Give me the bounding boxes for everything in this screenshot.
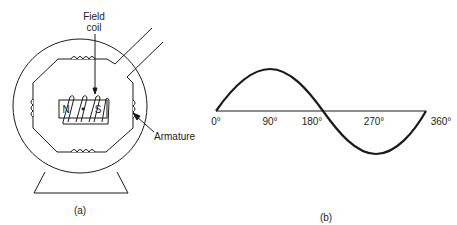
generator-diagram: Field coil N S Armature (a) 0° 90° 180° … — [0, 0, 457, 225]
tick-label-360: 360° — [431, 116, 452, 127]
tick-label-90: 90° — [262, 116, 277, 127]
figure-a-caption: (a) — [74, 205, 86, 216]
field-coil-label-line2: coil — [86, 22, 101, 33]
sine-wave-figure-b — [216, 69, 426, 154]
rotor-axis-dot — [82, 108, 85, 111]
north-pole-label: N — [62, 104, 69, 115]
field-coil-label-line1: Field — [83, 11, 105, 22]
figure-b-caption: (b) — [320, 212, 332, 223]
generator-figure-a — [13, 28, 163, 193]
armature-label: Armature — [154, 131, 196, 142]
tick-label-180: 180° — [302, 116, 323, 127]
armature-winding-left — [31, 99, 33, 117]
south-pole-label: S — [95, 104, 102, 115]
tick-label-0: 0° — [211, 116, 221, 127]
base-stand — [34, 172, 128, 193]
tick-label-270: 270° — [364, 116, 385, 127]
